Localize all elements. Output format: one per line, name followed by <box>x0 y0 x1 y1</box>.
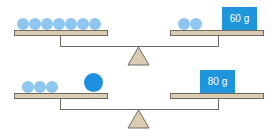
small-ball <box>190 18 202 30</box>
small-ball <box>89 18 101 30</box>
big-ball <box>84 73 103 92</box>
fulcrum-triangle-icon <box>127 46 150 66</box>
small-ball <box>178 18 190 30</box>
left-pan-1 <box>14 30 108 36</box>
weight-box-60g: 60 g <box>222 7 257 30</box>
small-ball <box>53 18 65 30</box>
small-ball <box>41 18 53 30</box>
left-pan-2 <box>14 93 108 99</box>
small-ball <box>17 18 29 30</box>
small-ball <box>46 81 58 93</box>
small-ball <box>34 81 46 93</box>
small-ball <box>77 18 89 30</box>
weight-box-80g: 80 g <box>200 70 235 93</box>
fulcrum-triangle-icon <box>127 109 150 129</box>
right-pan-1 <box>170 30 264 36</box>
small-ball <box>29 18 41 30</box>
small-ball <box>65 18 77 30</box>
small-ball <box>22 81 34 93</box>
right-pan-2 <box>170 93 264 99</box>
